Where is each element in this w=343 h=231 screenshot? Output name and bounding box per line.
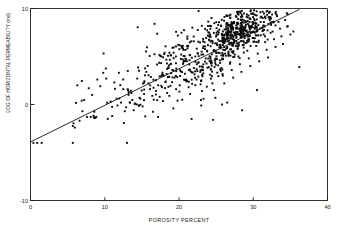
data-point [183,79,185,81]
data-point [231,34,233,36]
data-point [183,55,185,57]
data-point [264,41,266,43]
data-point [137,26,139,28]
data-point [193,67,195,69]
data-point [264,16,266,18]
data-point [234,33,236,35]
data-point [216,27,218,29]
data-point [267,39,269,41]
data-point [221,69,223,71]
data-point [99,85,101,87]
data-point [270,32,272,34]
data-point [229,17,231,19]
data-point [262,11,264,13]
data-point [224,29,226,31]
data-point [202,63,204,65]
data-point [177,100,179,102]
data-point [218,21,220,23]
data-point [235,15,237,17]
y-tick-label: 0 [25,102,28,108]
data-point [170,63,172,65]
data-point [250,13,252,15]
data-point [245,20,247,22]
data-point [175,68,177,70]
data-point [232,52,234,54]
data-point [107,118,109,120]
data-point [221,104,223,106]
data-point [165,59,167,61]
data-point [167,55,169,57]
data-point [263,21,265,23]
data-point [222,30,224,32]
data-point [167,86,169,88]
data-point [256,15,258,17]
data-point [250,45,252,47]
data-point [247,32,249,34]
data-point [232,45,234,47]
data-point [199,41,201,43]
data-point [220,54,222,56]
data-point [127,70,129,72]
data-point [207,67,209,69]
data-point [241,19,243,21]
data-point [182,58,184,60]
data-point [201,65,203,67]
data-point [266,14,268,16]
data-point [211,71,213,73]
data-point [232,77,234,79]
data-point [200,83,202,85]
data-point [164,81,166,83]
data-point [257,41,259,43]
data-point [138,105,140,107]
data-point [202,38,204,40]
data-point [235,25,237,27]
data-point [240,22,242,24]
data-point [209,25,211,27]
data-point [36,142,38,144]
data-point [241,24,243,26]
data-point [201,25,203,27]
data-point [171,81,173,83]
data-point [159,55,161,57]
data-point [130,90,132,92]
data-point [123,122,125,124]
data-point [246,50,248,52]
data-point [200,80,202,82]
data-point [143,99,145,101]
data-point [214,66,216,68]
data-point [229,49,231,51]
data-point [191,27,193,29]
data-point [242,44,244,46]
data-point [240,16,242,18]
data-point [232,27,234,29]
data-point [235,45,237,47]
data-point [194,84,196,86]
data-point [131,99,133,101]
data-point [255,45,257,47]
data-point [203,45,205,47]
data-point [227,52,229,54]
data-point [182,63,184,65]
data-point [266,49,268,51]
data-point [153,87,155,89]
data-point [205,57,207,59]
data-point [175,56,177,58]
data-point [134,103,136,105]
data-point [186,80,188,82]
data-point [164,87,166,89]
data-point [236,43,238,45]
data-point [172,107,174,109]
data-point [194,56,196,58]
data-point [160,85,162,87]
data-point [180,54,182,56]
data-point [237,12,239,14]
data-point [88,87,90,89]
data-point [260,21,262,23]
data-point [117,105,119,107]
data-point [196,48,198,50]
data-point [169,59,171,61]
data-point [196,79,198,81]
data-point [257,34,259,36]
data-point [273,38,275,40]
data-point [191,79,193,81]
